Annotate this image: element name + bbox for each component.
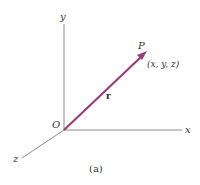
position-vector-diagram: y x z O P (x, y, z) r (a) (0, 0, 200, 185)
y-axis-label: y (59, 11, 66, 22)
z-axis-label: z (12, 153, 19, 164)
z-axis (22, 130, 64, 158)
position-vector-r (64, 56, 142, 130)
point-coordinates: (x, y, z) (147, 59, 180, 69)
x-axis-label: x (185, 124, 191, 135)
point-label: P (137, 40, 145, 51)
vector-label: r (106, 91, 111, 101)
origin-label: O (52, 119, 60, 130)
figure-caption: (a) (89, 163, 103, 174)
